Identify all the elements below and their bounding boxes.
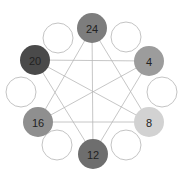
node-20: 20 xyxy=(20,45,50,75)
empty-circle-5 xyxy=(111,130,141,160)
circular-graph-diagram: 2448121620 xyxy=(0,0,189,176)
empty-circle-1 xyxy=(111,22,141,52)
node-label: 16 xyxy=(32,117,44,129)
node-24: 24 xyxy=(77,13,107,43)
node-16: 16 xyxy=(23,107,53,137)
node-12: 12 xyxy=(78,139,108,169)
node-label: 12 xyxy=(87,149,99,161)
empty-circle-3 xyxy=(147,77,177,107)
node-label: 8 xyxy=(146,117,152,129)
node-label: 4 xyxy=(146,56,152,68)
edge-20-4 xyxy=(35,60,149,61)
node-4: 4 xyxy=(134,46,164,76)
empty-circle-2 xyxy=(6,77,36,107)
node-8: 8 xyxy=(134,107,164,137)
empty-circle-4 xyxy=(42,130,72,160)
empty-circle-0 xyxy=(43,23,73,53)
node-label: 20 xyxy=(29,55,41,67)
node-label: 24 xyxy=(86,23,98,35)
